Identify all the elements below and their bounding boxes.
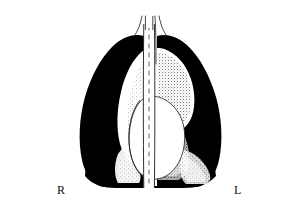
side-marker-right: R [57, 184, 65, 196]
side-marker-left: L [234, 184, 242, 196]
figure-root: R L [0, 0, 300, 213]
spine-column [143, 24, 155, 188]
trachea [145, 16, 153, 30]
chest-radiograph-illustration [0, 0, 300, 213]
